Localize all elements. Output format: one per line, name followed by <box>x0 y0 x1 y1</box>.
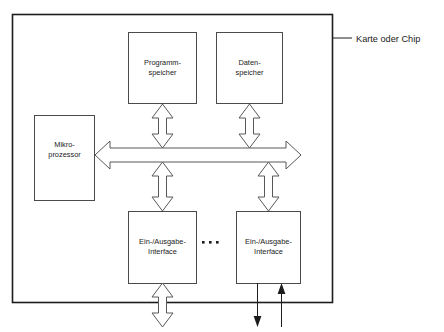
bus-arrow-program-memory <box>152 104 173 148</box>
block-io-interface-right-label-line1: Ein-/Ausgabe- <box>245 237 292 246</box>
block-program-memory-label-line1: Programm- <box>144 58 181 67</box>
bus-arrow-io-right <box>258 162 279 211</box>
block-io-interface-left-label-line2: Interface <box>148 247 177 256</box>
block-data-memory-label-line2: speicher <box>236 68 264 77</box>
block-io-interface-left-label-line1: Ein-/Ausgabe- <box>139 237 186 246</box>
block-data-memory-label-line1: Daten- <box>238 58 261 67</box>
external-output-line-io-right <box>254 283 262 327</box>
block-microprocessor-label-line1: Mikro- <box>54 140 75 149</box>
bus-arrow-io-left <box>152 162 173 211</box>
bus-arrow-data-memory <box>239 104 260 148</box>
block-microprocessor-label-line2: prozessor <box>48 150 81 159</box>
annotation-label: Karte oder Chip <box>356 34 420 44</box>
block-program-memory-label-line2: speicher <box>149 68 177 77</box>
external-input-line-io-right <box>278 283 286 327</box>
external-bus-arrow-io-left <box>152 283 173 327</box>
block-io-interface-right-label-line2: Interface <box>254 247 283 256</box>
ellipsis-between-io-blocks <box>202 241 219 244</box>
diagram-canvas: Karte oder Chip Programm- speicher Daten… <box>0 0 444 332</box>
